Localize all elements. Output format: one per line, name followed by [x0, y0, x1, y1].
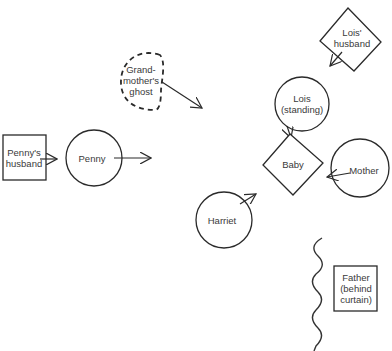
label-lois-husband: Lois' husband: [334, 27, 370, 49]
family-diagram: [0, 0, 392, 351]
label-mother: Mother: [349, 165, 379, 176]
label-lois: Lois (standing): [281, 93, 323, 115]
label-harriet: Harriet: [208, 215, 237, 226]
curtain-wavy-line: [312, 238, 322, 351]
label-baby: Baby: [282, 159, 304, 170]
label-penny: Penny: [79, 153, 106, 164]
label-grandmothers-ghost: Grand- mother's ghost: [123, 64, 159, 97]
arrow-ghost-outward: [162, 82, 202, 108]
label-pennys-husband: Penny's husband: [6, 147, 42, 169]
label-father: Father (behind curtain): [340, 272, 372, 305]
